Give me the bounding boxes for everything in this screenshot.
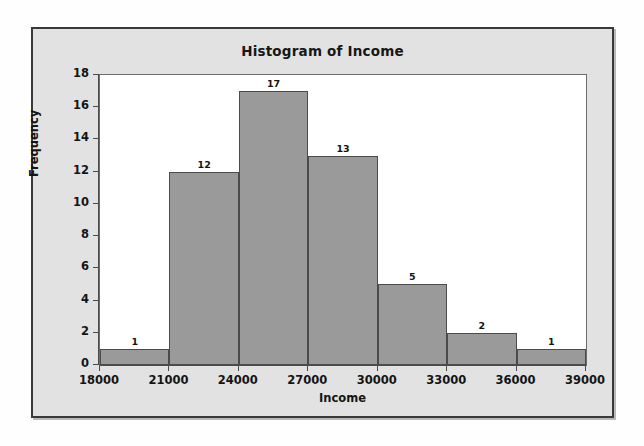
y-axis-tick	[93, 138, 98, 139]
x-axis-tick	[585, 366, 586, 371]
y-axis-tick	[93, 332, 98, 333]
x-axis-title: Income	[99, 391, 586, 405]
bar-value-label: 13	[308, 143, 377, 154]
y-axis-tick-label: 12	[55, 163, 89, 177]
y-axis-tick-label: 2	[55, 324, 89, 338]
x-axis-tick-label: 30000	[342, 373, 412, 387]
histogram-bar	[308, 156, 377, 365]
y-axis-tick-label: 18	[55, 66, 89, 80]
x-axis-tick	[307, 366, 308, 371]
y-axis-tick-label: 8	[55, 227, 89, 241]
bar-value-label: 12	[169, 159, 238, 170]
histogram-bar	[239, 91, 308, 365]
y-axis-tick	[93, 74, 98, 75]
histogram-bar	[378, 284, 447, 365]
bar-value-label: 17	[239, 78, 308, 89]
y-axis-tick	[93, 203, 98, 204]
y-axis-tick-label: 4	[55, 292, 89, 306]
x-axis-tick	[238, 366, 239, 371]
chart-title: Histogram of Income	[33, 43, 612, 59]
y-axis-title: Frequency	[27, 110, 41, 177]
chart-panel: Histogram of Income Frequency 0246810121…	[31, 27, 614, 418]
histogram-bar	[447, 333, 516, 365]
x-axis-tick-label: 27000	[272, 373, 342, 387]
x-axis-tick	[168, 366, 169, 371]
y-axis-tick-label: 6	[55, 259, 89, 273]
y-axis-tick	[93, 300, 98, 301]
x-axis-tick-label: 21000	[133, 373, 203, 387]
bar-value-label: 1	[517, 336, 586, 347]
x-axis-tick-label: 33000	[411, 373, 481, 387]
x-axis-tick	[377, 366, 378, 371]
y-axis-tick	[93, 171, 98, 172]
x-axis-tick	[516, 366, 517, 371]
y-axis-tick-label: 14	[55, 130, 89, 144]
x-axis-tick-label: 24000	[203, 373, 273, 387]
x-axis-line	[99, 365, 586, 366]
y-axis-tick-label: 16	[55, 98, 89, 112]
histogram-screenshot: Histogram of Income Frequency 0246810121…	[0, 0, 644, 446]
bar-value-label: 5	[378, 271, 447, 282]
x-axis-tick-label: 36000	[481, 373, 551, 387]
y-axis-tick-label: 0	[55, 356, 89, 370]
bars-layer: 1121713521	[100, 75, 586, 365]
plot-area: 1121713521	[99, 74, 587, 366]
y-axis-tick	[93, 235, 98, 236]
y-axis-tick	[93, 267, 98, 268]
x-axis-tick-label: 18000	[64, 373, 134, 387]
bar-value-label: 2	[447, 320, 516, 331]
bar-value-label: 1	[100, 336, 169, 347]
histogram-bar	[517, 349, 586, 365]
y-axis-tick	[93, 106, 98, 107]
x-axis-tick	[446, 366, 447, 371]
histogram-bar	[100, 349, 169, 365]
x-axis-tick-label: 39000	[550, 373, 620, 387]
y-axis-tick	[93, 364, 98, 365]
y-axis-tick-label: 10	[55, 195, 89, 209]
x-axis-tick	[99, 366, 100, 371]
histogram-bar	[169, 172, 238, 365]
